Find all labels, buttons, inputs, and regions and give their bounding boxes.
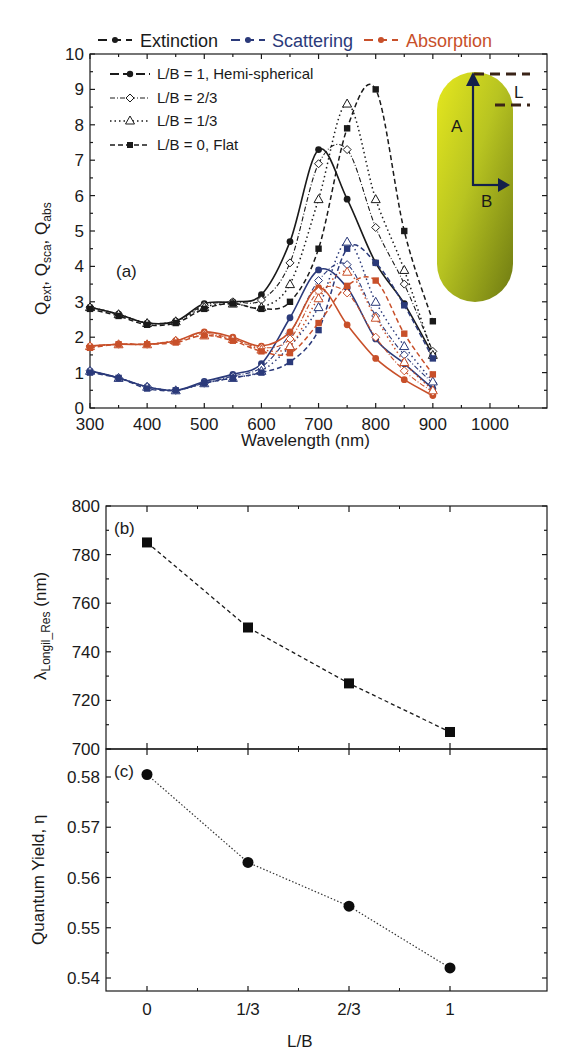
legend-label: Absorption [406, 31, 492, 51]
data-point [173, 320, 179, 326]
filled-circle-icon [378, 37, 384, 43]
panel-b: 700720740760780800 (b) λLongil_Res (nm) [31, 497, 547, 759]
data-point [445, 727, 455, 737]
data-point [258, 348, 264, 354]
y-tick-label: 0.55 [67, 919, 100, 938]
panel-label-b: (b) [114, 519, 135, 538]
data-point [401, 376, 408, 383]
data-point [344, 196, 351, 203]
panel-label-a: (a) [116, 262, 137, 281]
data-point [314, 303, 323, 311]
data-point [87, 345, 93, 351]
y-tick-label: 0 [75, 399, 84, 418]
data-point [401, 302, 407, 308]
data-point [144, 322, 150, 328]
legend-scattering: Scattering [231, 31, 353, 51]
data-point [344, 678, 354, 688]
data-point [373, 260, 379, 266]
x-tick-label: 1000 [471, 415, 509, 434]
data-point [371, 195, 380, 203]
legend-label: L/B = 0, Flat [157, 136, 239, 153]
panel-a: 3004005006007008009001000012345678910 (a… [32, 45, 547, 450]
data-point [142, 537, 152, 547]
data-point [430, 371, 436, 377]
y-tick-label: 4 [75, 257, 84, 276]
x-tick-label: 500 [190, 415, 218, 434]
data-point [258, 306, 264, 312]
y-axis-title-c: Quantum Yield, η [29, 815, 48, 945]
y-tick-label: 3 [75, 293, 84, 312]
data-point [201, 380, 207, 386]
label-B: B [481, 192, 492, 211]
legend-extinction: Extinction [98, 31, 218, 51]
data-point [315, 327, 321, 333]
data-point [142, 769, 153, 780]
data-point [401, 228, 407, 234]
data-point [344, 283, 350, 289]
data-point [400, 280, 408, 288]
y-tick-label: 6 [75, 187, 84, 206]
data-point [173, 387, 179, 393]
legend-lb1: L/B = 1, Hemi-spherical [110, 65, 313, 82]
x-tick-label: 400 [133, 415, 161, 434]
data-point [315, 320, 321, 326]
y-axis-title-a: Qext, Qsca, Qabs [32, 202, 54, 315]
y-tick-label: 0.56 [67, 869, 100, 888]
legend-lb0: L/B = 0, Flat [110, 136, 239, 153]
data-point [315, 246, 321, 252]
y-tick-label: 8 [75, 116, 84, 135]
data-point [430, 318, 436, 324]
data-point [344, 901, 355, 912]
data-point [344, 246, 350, 252]
data-point [285, 280, 294, 288]
x-tick-label: 900 [419, 415, 447, 434]
data-point [314, 294, 323, 302]
y-tick-label: 7 [75, 151, 84, 170]
data-point [201, 306, 207, 312]
data-point [343, 146, 351, 154]
data-point [445, 962, 456, 973]
series-line [87, 245, 436, 394]
series-b: 700720740760780800 [72, 497, 547, 759]
x-tick-label: 0 [142, 1000, 151, 1019]
data-point [373, 86, 379, 92]
filled-square-icon [127, 142, 133, 148]
panel-c: 0.540.550.560.570.5801/32/31 (c) Quantum… [29, 749, 547, 1051]
data-point [344, 125, 350, 131]
y-tick-label: 760 [72, 594, 100, 613]
y-tick-label: 800 [72, 497, 100, 516]
panel-label-c: (c) [114, 762, 134, 781]
data-point [287, 299, 293, 305]
data-point [258, 369, 264, 375]
legend-label: L/B = 1, Hemi-spherical [157, 65, 313, 82]
data-point [287, 314, 294, 321]
data-point [243, 857, 254, 868]
y-tick-label: 720 [72, 691, 100, 710]
data-point [286, 259, 294, 267]
nanorod-inset: A B L [437, 72, 530, 302]
y-tick-label: 0.58 [67, 768, 100, 787]
data-point [430, 355, 436, 361]
data-point [344, 321, 351, 328]
filled-circle-icon [245, 37, 251, 43]
data-point [173, 339, 179, 345]
y-tick-label: 10 [65, 45, 84, 64]
series-line [86, 99, 438, 358]
series-c: 0.540.550.560.570.5801/32/31 [67, 768, 547, 1019]
quantity-legend: Extinction Scattering Absorption [98, 31, 492, 51]
legend-label: Extinction [140, 31, 218, 51]
legend-label: L/B = 2/3 [157, 89, 217, 106]
data-point [87, 306, 93, 312]
legend-label: L/B = 1/3 [157, 112, 217, 129]
data-point [343, 237, 352, 245]
data-point [230, 338, 236, 344]
open-diamond-icon [126, 94, 134, 102]
legend-lb23: L/B = 2/3 [110, 89, 217, 106]
y-tick-label: 780 [72, 546, 100, 565]
filled-circle-icon [127, 71, 133, 77]
data-point [315, 277, 323, 285]
data-point [343, 99, 352, 107]
data-point [144, 385, 150, 391]
data-point [287, 359, 293, 365]
data-point [201, 332, 207, 338]
